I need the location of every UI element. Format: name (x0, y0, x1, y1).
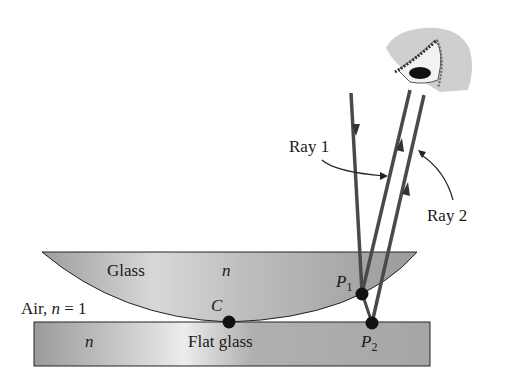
lens-index-label: n (222, 262, 231, 279)
flat-glass-label: Flat glass (188, 333, 253, 350)
glass-label: Glass (107, 262, 145, 279)
ray-2-label: Ray 2 (427, 207, 467, 224)
air-label: Air, n = 1 (21, 300, 87, 317)
point-p1-label: P1 (336, 273, 352, 293)
newtons-rings-diagram (0, 0, 507, 382)
point-c (223, 316, 236, 329)
air-text: Air, (21, 299, 51, 318)
arrow-right-icon (380, 172, 388, 180)
p1-sub: 1 (346, 280, 352, 294)
eye-icon (386, 28, 472, 92)
air-n: n (51, 299, 60, 318)
p2-sub: 2 (371, 340, 377, 354)
ray-1-label: Ray 1 (289, 138, 329, 155)
point-p1 (356, 288, 369, 301)
p2-letter: P (361, 332, 371, 351)
p1-letter: P (336, 272, 346, 291)
air-eq: = 1 (60, 299, 87, 318)
ray-2-leader (420, 154, 453, 200)
point-c-label: C (211, 297, 222, 314)
flat-index-label: n (85, 333, 94, 350)
point-p2 (366, 317, 379, 330)
point-p2-label: P2 (361, 333, 377, 353)
